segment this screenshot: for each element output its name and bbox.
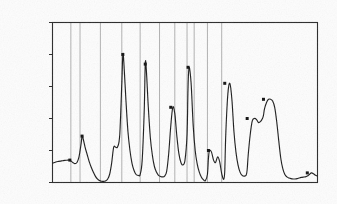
scan-grain-overlay bbox=[0, 0, 337, 204]
chart-canvas bbox=[0, 0, 337, 204]
chart-figure: 0.00.20.40.60.81.0 confidence score bbox=[0, 0, 337, 204]
